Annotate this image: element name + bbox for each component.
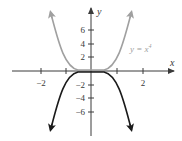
y-tick-label-neg2: −2 xyxy=(75,80,85,90)
curve-label-base: y = x xyxy=(129,44,149,54)
y-tick-label-4: 4 xyxy=(81,39,86,49)
x-tick-label-neg2: −2 xyxy=(36,78,46,88)
arrowhead-lower-left xyxy=(51,124,53,130)
x-axis-label: x xyxy=(169,57,175,68)
function-graph: y x −2 2 6 4 2 −2 −4 −6 y = x4 xyxy=(0,0,182,141)
y-tick-label-6: 6 xyxy=(81,25,86,35)
x-tick-label-2: 2 xyxy=(141,78,146,88)
y-tick-label-2: 2 xyxy=(81,52,86,62)
arrowhead-upper-left xyxy=(51,12,53,18)
curve-label-exponent: 4 xyxy=(149,43,152,49)
y-axis-label: y xyxy=(96,6,102,17)
y-tick-label-neg4: −4 xyxy=(75,93,85,103)
y-tick-label-neg6: −6 xyxy=(75,107,85,117)
arrowhead-lower-right xyxy=(130,124,132,130)
arrowhead-upper-right xyxy=(130,12,132,18)
curve-label: y = x4 xyxy=(129,43,152,54)
